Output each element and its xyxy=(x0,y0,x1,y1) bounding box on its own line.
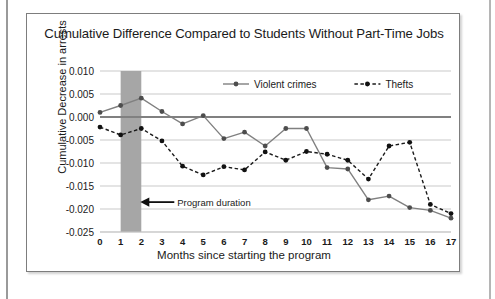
chart-plot: 0.0100.0050.000-0.005-0.010-0.015-0.020-… xyxy=(27,14,461,273)
svg-text:15: 15 xyxy=(404,236,415,247)
svg-text:-0.015: -0.015 xyxy=(66,181,95,192)
svg-text:11: 11 xyxy=(322,236,333,247)
svg-text:0.005: 0.005 xyxy=(69,89,94,100)
shaded-band-group xyxy=(121,71,142,232)
svg-text:9: 9 xyxy=(283,236,288,247)
chart-legend: Violent crimesThefts xyxy=(223,79,413,90)
svg-text:3: 3 xyxy=(159,236,164,247)
svg-text:0.000: 0.000 xyxy=(69,112,94,123)
svg-text:-0.005: -0.005 xyxy=(66,135,95,146)
svg-text:2: 2 xyxy=(139,236,144,247)
svg-text:-0.010: -0.010 xyxy=(66,158,95,169)
program-duration-label: Program duration xyxy=(177,197,250,208)
svg-text:10: 10 xyxy=(301,236,312,247)
page-edge-artifact-left xyxy=(6,0,8,299)
svg-text:-0.025: -0.025 xyxy=(66,227,95,238)
x-tick-labels-group: 01234567891011121314151617 xyxy=(97,232,456,247)
svg-text:16: 16 xyxy=(425,236,436,247)
svg-text:-0.020: -0.020 xyxy=(66,204,95,215)
svg-text:0.010: 0.010 xyxy=(69,66,94,77)
page-edge-artifact-right xyxy=(489,0,491,299)
svg-text:6: 6 xyxy=(221,236,226,247)
gridlines-group xyxy=(100,71,451,232)
y-tick-labels-group: 0.0100.0050.000-0.005-0.010-0.015-0.020-… xyxy=(66,66,95,238)
x-axis-label: Months since starting the program xyxy=(27,249,461,261)
svg-text:0: 0 xyxy=(97,236,102,247)
svg-text:4: 4 xyxy=(180,236,186,247)
svg-text:13: 13 xyxy=(363,236,374,247)
svg-text:7: 7 xyxy=(242,236,247,247)
annotations-group: Program duration xyxy=(140,197,250,208)
legend-label-thefts: Thefts xyxy=(385,79,413,90)
figure-container: Cumulative Difference Compared to Studen… xyxy=(26,13,460,272)
svg-text:14: 14 xyxy=(384,236,395,247)
svg-text:12: 12 xyxy=(342,236,353,247)
svg-text:5: 5 xyxy=(201,236,207,247)
svg-text:8: 8 xyxy=(263,236,268,247)
svg-text:1: 1 xyxy=(118,236,124,247)
svg-text:17: 17 xyxy=(446,236,457,247)
legend-label-violent-crimes: Violent crimes xyxy=(254,79,317,90)
